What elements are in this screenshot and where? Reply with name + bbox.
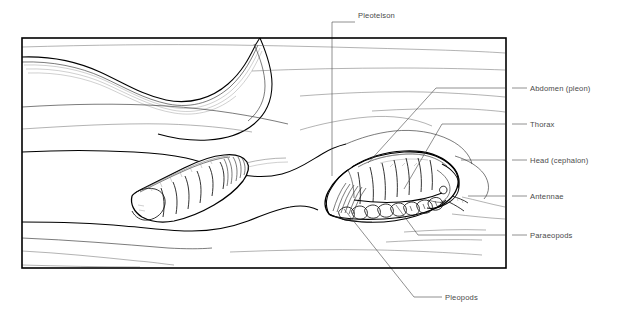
burrow-rim-right-upper-2 [300,116,432,130]
right-substrate-contour-2 [462,197,505,207]
label-thorax: Thorax [530,121,555,129]
label-antennae: Antennae [530,193,564,201]
right-isopod [325,151,468,222]
upper-burrow-right-rim [158,38,272,140]
grain-line-lower-3 [230,250,482,255]
antennae-lower [449,202,464,211]
grain-line-lower-5 [404,230,486,232]
grain-line-lower-1 [22,238,212,249]
wood-substrate-group [22,38,505,267]
upper-burrow-striation-a [24,48,260,108]
right-substrate-contour-3 [452,214,505,219]
label-head: Head (cephalon) [530,157,588,165]
label-pleopods: Pleopods [445,294,478,302]
grain-line-mid-2 [22,124,252,132]
grain-line-mid-3 [300,92,505,97]
upper-burrow-inner-edge [22,45,258,105]
antennae-upper [452,196,468,203]
grain-line-lower-4 [386,240,482,242]
left-isopod-burrow-shadow-2 [248,162,288,167]
diagram-frame [22,38,506,268]
left-isopod [131,155,288,222]
label-pleotelson: Pleotelson [358,12,395,20]
isopod-anatomy-figure: Pleotelson Abdomen (pleon) Thorax Head (… [0,0,626,323]
upper-burrow-outline [22,38,260,102]
grain-line-lower-2 [22,251,174,265]
label-paraeopods: Paraeopods [530,232,572,240]
grain-line-top [22,45,505,53]
grain-line-top-2 [252,68,505,71]
pleotelson-leader-line [332,22,355,176]
grain-line-mid-4 [372,109,505,112]
grain-line-bottom-edge [22,265,140,267]
label-abdomen: Abdomen (pleon) [530,85,591,93]
